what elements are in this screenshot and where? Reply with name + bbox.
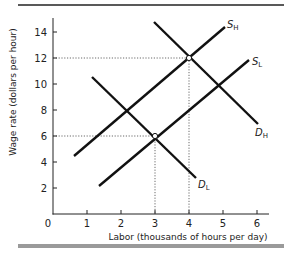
equilibrium-point-high — [186, 55, 191, 60]
x-ticks — [87, 210, 257, 214]
x-tick-label: 4 — [186, 218, 192, 229]
y-tick-label: 6 — [41, 131, 47, 142]
x-tick-label: 3 — [152, 218, 158, 229]
s-l-label: SL — [252, 56, 262, 69]
x-tick-label: 5 — [220, 218, 226, 229]
y-tick-label: 10 — [34, 79, 47, 90]
x-axis-label: Labor (thousands of hours per day) — [108, 232, 267, 242]
y-tick-label: 4 — [41, 157, 47, 168]
y-ticks — [53, 32, 57, 188]
y-axis-label: Wage rate (dollars per hour) — [8, 28, 18, 156]
x-tick-label: 2 — [118, 218, 124, 229]
supply-curve-low — [99, 60, 249, 186]
d-l-label: DL — [198, 179, 210, 192]
origin-label: 0 — [45, 218, 51, 229]
x-tick-label: 6 — [254, 218, 260, 229]
s-h-label: SH — [227, 19, 239, 32]
equilibrium-point-low — [152, 133, 157, 138]
bottom-rule — [18, 244, 284, 248]
chart-canvas: 2 4 6 8 10 12 14 0 1 2 3 4 5 6 Labor (th… — [0, 0, 293, 257]
y-tick-label: 14 — [34, 27, 47, 38]
y-tick-label: 8 — [41, 105, 47, 116]
y-tick-label: 2 — [41, 183, 47, 194]
guide-lines — [53, 58, 189, 214]
x-tick-label: 1 — [84, 218, 90, 229]
supply-curve-high — [74, 27, 225, 156]
d-h-label: DH — [255, 127, 268, 140]
y-tick-label: 12 — [34, 53, 47, 64]
